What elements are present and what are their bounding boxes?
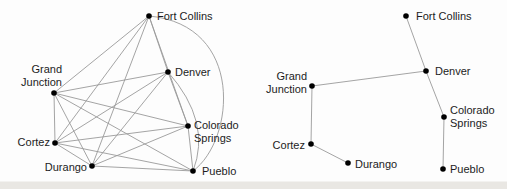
node-label-line: Grand: [276, 70, 307, 82]
node-label-fort-collins: Fort Collins: [416, 10, 472, 22]
node-grand-junction: [51, 90, 57, 96]
node-label-pueblo: Pueblo: [202, 165, 236, 177]
node-label-cortez: Cortez: [273, 139, 305, 151]
node-label-durango: Durango: [355, 158, 397, 170]
node-label-line: Pueblo: [450, 163, 484, 175]
node-label-line: Junction: [266, 83, 307, 95]
node-pueblo: [440, 166, 446, 172]
node-label-line: Denver: [175, 66, 211, 78]
node-denver: [423, 68, 429, 74]
node-label-line: Pueblo: [202, 165, 236, 177]
node-label-line: Junction: [21, 76, 62, 88]
node-label-line: Colorado: [194, 119, 239, 131]
node-fort-collins: [146, 13, 152, 19]
node-label-line: Springs: [450, 117, 488, 129]
node-colorado-springs: [441, 114, 447, 120]
node-label-line: Cortez: [273, 139, 305, 151]
graph-canvas: Fort CollinsDenverGrandJunctionCortezDur…: [0, 0, 507, 189]
node-durango: [345, 160, 351, 166]
node-durango: [89, 163, 95, 169]
node-cortez: [308, 141, 314, 147]
node-label-line: Colorado: [450, 104, 495, 116]
node-label-pueblo: Pueblo: [450, 163, 484, 175]
node-pueblo: [190, 168, 196, 174]
node-fort-collins: [403, 13, 409, 19]
node-label-denver: Denver: [435, 65, 471, 77]
node-cortez: [52, 140, 58, 146]
node-label-line: Fort Collins: [157, 10, 213, 22]
node-label-line: Fort Collins: [416, 10, 472, 22]
node-label-fort-collins: Fort Collins: [157, 10, 213, 22]
node-colorado-springs: [185, 123, 191, 129]
node-grand-junction: [309, 83, 315, 89]
node-label-line: Cortez: [18, 136, 50, 148]
page-edge-strip: [0, 182, 507, 190]
node-label-denver: Denver: [175, 66, 211, 78]
node-label-line: Durango: [355, 158, 397, 170]
node-denver: [165, 69, 171, 75]
node-label-cortez: Cortez: [18, 136, 50, 148]
node-label-line: Durango: [45, 161, 87, 173]
node-label-line: Denver: [435, 65, 471, 77]
node-label-line: Grand: [31, 63, 62, 75]
node-label-line: Springs: [194, 132, 232, 144]
node-label-durango: Durango: [45, 161, 87, 173]
figure-graphs: Fort CollinsDenverGrandJunctionCortezDur…: [0, 0, 507, 189]
